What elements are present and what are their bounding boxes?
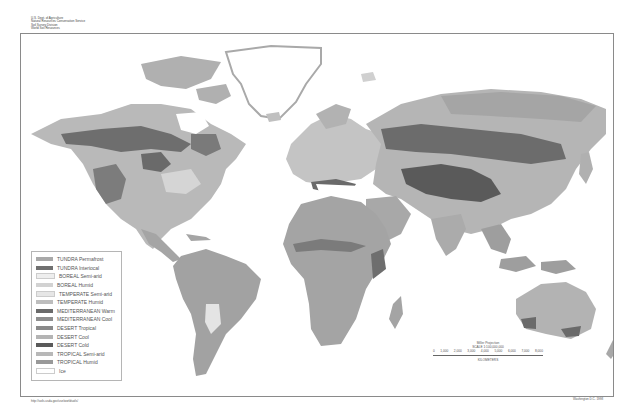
scale-tick: 5,000	[494, 349, 502, 353]
scale-tick: 2,000	[454, 349, 462, 353]
legend-item: TUNDRA Permafrost	[36, 255, 117, 264]
scale-unit: KILOMETERS	[433, 358, 543, 362]
legend-item: BOREAL Semi-arid	[36, 272, 117, 281]
swatch	[36, 317, 53, 321]
legend-item: TEMPERATE Semi-arid	[36, 289, 117, 298]
scale-tick: 7,000	[521, 349, 529, 353]
swatch	[36, 266, 53, 270]
swatch	[36, 273, 55, 279]
india	[431, 214, 466, 256]
legend-label: TUNDRA Permafrost	[57, 256, 103, 262]
scale-ticks: 0 1,000 2,000 3,000 4,000 5,000 6,000 7,…	[433, 349, 543, 353]
scale-bar: Miller Projection SCALE 1:100,000,000 0 …	[433, 341, 543, 362]
legend-label: TROPICAL Humid	[57, 359, 98, 365]
legend-label: Ice	[59, 368, 66, 374]
swatch	[36, 257, 53, 261]
legend-item: TEMPERATE Humid	[36, 298, 117, 307]
legend-item: MEDITERRANEAN Warm	[36, 307, 117, 316]
swatch	[36, 368, 55, 374]
legend-label: MEDITERRANEAN Warm	[57, 308, 115, 314]
legend-item: MEDITERRANEAN Cool	[36, 315, 117, 324]
legend-item: TROPICAL Humid	[36, 358, 117, 367]
scale-tick: 3,000	[467, 349, 475, 353]
legend-label: TUNDRA Interiocal	[57, 265, 99, 271]
swatch	[36, 360, 53, 364]
legend-label: BOREAL Humid	[57, 282, 93, 288]
swatch	[36, 300, 53, 304]
scale-tick: 0	[433, 349, 435, 353]
scale-tick: 1,000	[440, 349, 448, 353]
legend-label: DESERT Cold	[57, 342, 89, 348]
legend-label: DESERT Cool	[57, 334, 89, 340]
swatch	[36, 326, 53, 330]
scale-tick: 6,000	[508, 349, 516, 353]
arctic-islands	[141, 56, 221, 89]
swatch	[36, 291, 55, 297]
swatch	[36, 309, 53, 313]
greenland	[226, 46, 321, 119]
legend-label: TROPICAL Semi-arid	[57, 351, 105, 357]
australia	[516, 282, 596, 339]
legend-label: BOREAL Semi-arid	[59, 273, 102, 279]
legend-item: DESERT Cool	[36, 332, 117, 341]
legend-label: MEDITERRANEAN Cool	[57, 316, 112, 322]
legend-item: DESERT Tropical	[36, 324, 117, 333]
map-header: U.S. Dept. of Agriculture Natural Resour…	[31, 17, 85, 31]
scale-tick: 8,000	[535, 349, 543, 353]
footer-right: Washington D.C. 1998	[573, 397, 603, 401]
swatch	[36, 352, 53, 356]
legend-item: TUNDRA Interiocal	[36, 264, 117, 273]
footer-left: http://soils.usda.gov/use/worldsoils/	[31, 399, 78, 403]
map-frame: TUNDRA Permafrost TUNDRA Interiocal BORE…	[20, 33, 614, 397]
legend-label: TEMPERATE Semi-arid	[59, 291, 112, 297]
north-america	[31, 104, 246, 249]
legend-item: BOREAL Humid	[36, 281, 117, 290]
legend: TUNDRA Permafrost TUNDRA Interiocal BORE…	[31, 251, 122, 381]
header-line: World Soil Resources	[31, 27, 85, 30]
swatch	[36, 283, 53, 287]
legend-item: Ice	[36, 367, 117, 376]
swatch	[36, 335, 53, 339]
legend-item: TROPICAL Semi-arid	[36, 350, 117, 359]
swatch	[36, 343, 53, 347]
indonesia	[499, 256, 536, 272]
scale-tick: 4,000	[481, 349, 489, 353]
scale-line	[433, 355, 543, 356]
legend-label: DESERT Tropical	[57, 325, 96, 331]
legend-label: TEMPERATE Humid	[57, 299, 103, 305]
legend-item: DESERT Cold	[36, 341, 117, 350]
